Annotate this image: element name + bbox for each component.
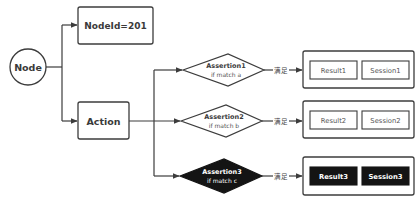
result-1-label: Result1 xyxy=(321,67,346,75)
result-2-box[interactable]: Result2 xyxy=(310,111,357,129)
assertion-1-edge: 满足 xyxy=(264,66,302,75)
assertion-3-edge-label: 满足 xyxy=(274,172,288,181)
session-3-label: Session3 xyxy=(368,173,402,181)
assertion-2-diamond[interactable]: Assertion2 if match b xyxy=(181,105,262,137)
action-label: Action xyxy=(86,116,120,127)
result-group-1: Result1 Session1 xyxy=(303,51,414,88)
action-connectors xyxy=(129,70,182,176)
assertion-2-condition: if match b xyxy=(209,122,240,129)
result-group-2: Result2 Session2 xyxy=(303,101,414,138)
result-3-label: Result3 xyxy=(319,173,348,181)
assertion-1-edge-label: 满足 xyxy=(274,66,288,75)
nodeid-label: NodeId=201 xyxy=(84,21,146,31)
assertion-3-diamond[interactable]: Assertion3 if match c xyxy=(180,159,262,193)
assertion-3-condition: if match c xyxy=(207,177,237,184)
nodeid-box[interactable]: NodeId=201 xyxy=(78,7,153,44)
result-2-label: Result2 xyxy=(321,117,346,125)
assertion-3-edge: 满足 xyxy=(262,172,302,181)
assertion-1-title: Assertion1 xyxy=(206,62,246,70)
session-2-label: Session2 xyxy=(370,117,400,125)
session-2-box[interactable]: Session2 xyxy=(362,111,409,129)
result-group-3: Result3 Session3 xyxy=(303,157,414,195)
session-1-box[interactable]: Session1 xyxy=(362,61,409,79)
assertion-1-condition: if match a xyxy=(211,71,242,78)
action-box[interactable]: Action xyxy=(78,102,129,139)
root-connectors xyxy=(46,25,77,121)
session-1-label: Session1 xyxy=(370,67,400,75)
assertion-3-title: Assertion3 xyxy=(202,168,241,176)
assertion-2-title: Assertion2 xyxy=(204,113,243,121)
root-node[interactable]: Node xyxy=(10,49,46,85)
assertion-2-edge-label: 满足 xyxy=(274,117,288,126)
assertion-1-diamond[interactable]: Assertion1 if match a xyxy=(183,54,264,86)
session-3-box[interactable]: Session3 xyxy=(362,167,409,185)
flow-diagram: Node NodeId=201 Action Assertion1 if mat… xyxy=(0,0,420,205)
result-3-box[interactable]: Result3 xyxy=(310,167,357,185)
assertion-2-edge: 满足 xyxy=(262,117,302,126)
result-1-box[interactable]: Result1 xyxy=(310,61,357,79)
root-node-label: Node xyxy=(14,62,42,73)
